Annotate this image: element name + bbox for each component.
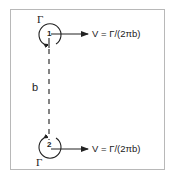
vortex-diagram xyxy=(0,0,173,177)
circulation-label-1: Γ xyxy=(37,14,43,25)
vortex-label-1: 1 xyxy=(47,30,51,38)
vortex-label-2: 2 xyxy=(47,141,51,149)
velocity-label-1: V = Γ/(2πb) xyxy=(92,29,140,39)
separation-label: b xyxy=(32,82,38,93)
circulation-label-2: Γ xyxy=(36,157,42,168)
velocity-label-2: V = Γ/(2πb) xyxy=(92,144,140,154)
